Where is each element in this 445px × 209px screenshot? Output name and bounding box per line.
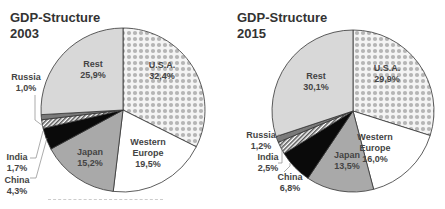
slice-label-india: India2,5% (257, 152, 279, 173)
slice-label-u-s-a: U.S.A.29,9% (374, 63, 401, 84)
slice-label-russia: Russia1,0% (11, 72, 42, 93)
slice-label-japan: Japan13,5% (334, 150, 360, 171)
slice-label-u-s-a: U.S.A.32,4% (149, 60, 176, 81)
pie-2015: U.S.A.29,9%WesternEurope16,0%Japan13,5%C… (246, 30, 434, 193)
slice-label-western-europe: WesternEurope19,5% (130, 137, 165, 169)
slice-label-china: China6,8% (277, 172, 303, 193)
pie-charts: U.S.A.32,4%WesternEurope19,5%Japan15,2%C… (0, 0, 445, 209)
slice-label-rest: Rest30,1% (303, 71, 329, 92)
slice-label-china: China4,3% (4, 175, 30, 196)
pie-2003: U.S.A.32,4%WesternEurope19,5%Japan15,2%C… (4, 28, 205, 196)
leader-line (30, 131, 43, 158)
faint-footer-line (48, 199, 163, 203)
leader-line (284, 163, 290, 172)
slice-label-russia: Russia1,2% (246, 130, 277, 151)
slice-label-india: India1,7% (6, 152, 28, 173)
slice-label-rest: Rest25,9% (80, 59, 106, 80)
slice-label-western-europe: WesternEurope16,0% (357, 132, 392, 164)
slice-label-japan: Japan15,2% (77, 147, 103, 168)
